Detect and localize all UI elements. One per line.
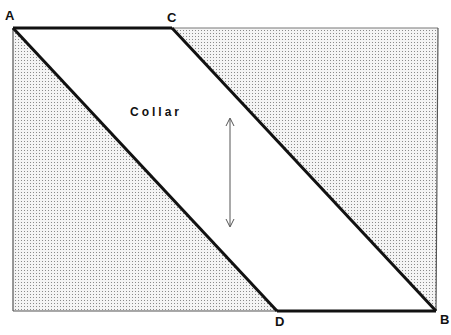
double-arrow-icon [226,118,234,227]
point-label-a: A [5,8,14,23]
point-label-b: B [440,312,449,327]
collar-label: Collar [130,105,182,119]
collar-diagram [0,0,451,335]
point-label-c: C [167,10,176,25]
point-label-d: D [275,314,284,329]
